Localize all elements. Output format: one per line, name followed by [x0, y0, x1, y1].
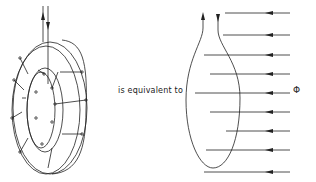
flux-arrowheads: [265, 11, 273, 174]
flux-lines: [195, 13, 290, 172]
toroid-outer-back: [13, 42, 87, 174]
loop-arrow-up-icon: [201, 12, 205, 20]
equivalence-text: is equivalent to: [118, 86, 183, 95]
toroid-figure: [11, 6, 87, 174]
toroid-inner-back: [27, 72, 55, 148]
loop-arrow-down-icon: [216, 14, 220, 22]
arrow-up-icon: [41, 12, 45, 20]
loop-figure: [186, 16, 240, 168]
flux-label: Φ: [293, 85, 300, 95]
arrow-down-icon: [46, 22, 50, 30]
